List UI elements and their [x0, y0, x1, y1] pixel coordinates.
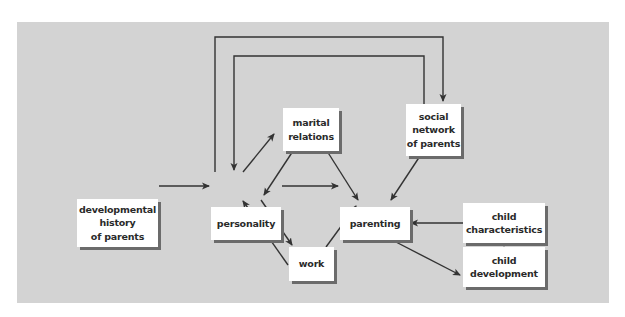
node-child-development: child development: [463, 247, 545, 287]
node-personality: personality: [211, 207, 281, 240]
arrow-parenting-to-child-development: [394, 241, 460, 275]
node-social-network: social network of parents: [406, 104, 461, 156]
node-label: personality: [217, 217, 275, 231]
node-label: developmental history of parents: [79, 203, 156, 244]
node-label: marital relations: [288, 116, 334, 143]
node-child-characteristics: child characteristics: [463, 203, 545, 243]
node-label: child development: [470, 254, 538, 281]
node-label: social network of parents: [407, 110, 460, 151]
node-parenting: parenting: [340, 207, 410, 240]
node-marital-relations: marital relations: [283, 108, 339, 151]
arrow-social-network-to-parenting: [391, 156, 420, 200]
node-label: parenting: [350, 217, 401, 231]
node-label: work: [299, 257, 325, 271]
arrow-personality-to-marital: [243, 134, 274, 172]
arrow-marital-to-personality: [264, 151, 293, 195]
node-label: child characteristics: [466, 210, 542, 237]
arrow-marital-to-parenting: [327, 151, 358, 200]
node-work: work: [289, 247, 334, 281]
node-developmental-history: developmental history of parents: [77, 199, 158, 247]
